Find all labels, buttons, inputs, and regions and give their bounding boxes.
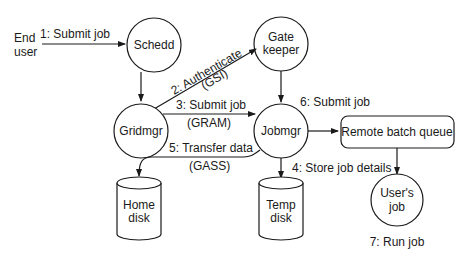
svg-text:(GASS): (GASS) (189, 159, 230, 173)
svg-text:5: Transfer data: 5: Transfer data (169, 141, 253, 155)
svg-text:Gate: Gate (268, 30, 294, 44)
svg-text:(GRAM): (GRAM) (187, 116, 231, 130)
node-schedd: Schedd (127, 18, 181, 72)
node-jobmgr: Jobmgr (254, 104, 308, 158)
svg-text:disk: disk (128, 211, 150, 225)
svg-text:User's: User's (380, 186, 414, 200)
svg-text:6: Submit job: 6: Submit job (300, 95, 370, 109)
svg-text:job: job (388, 200, 405, 214)
edge-submit-job-3: 3: Submit job (GRAM) (163, 98, 255, 130)
svg-text:Jobmgr: Jobmgr (261, 124, 301, 138)
svg-text:keeper: keeper (263, 43, 300, 57)
svg-text:4: Store job details: 4: Store job details (292, 161, 391, 175)
svg-text:Schedd: Schedd (134, 38, 175, 52)
condor-g-diagram: End user 1: Submit job Schedd Gate keepe… (0, 0, 472, 266)
edge-submit-job-1: 1: Submit job (40, 27, 125, 44)
svg-text:user: user (14, 45, 37, 59)
svg-text:Remote batch queue: Remote batch queue (341, 125, 453, 139)
svg-text:3: Submit job: 3: Submit job (176, 98, 246, 112)
svg-text:Temp: Temp (266, 198, 296, 212)
end-user-label: End user (14, 31, 37, 59)
edge-store-job-details: 4: Store job details (281, 158, 391, 178)
node-gatekeeper: Gate keeper (254, 17, 308, 71)
node-remote-batch-queue: Remote batch queue (341, 116, 454, 148)
node-gridmgr: Gridmgr (114, 104, 168, 158)
svg-text:Gridmgr: Gridmgr (119, 124, 162, 138)
svg-text:End: End (14, 31, 35, 45)
edge-label: 1: Submit job (40, 27, 110, 41)
svg-text:disk: disk (270, 211, 292, 225)
edge-label-run-job: 7: Run job (370, 235, 425, 249)
node-home-disk: Home disk (117, 177, 161, 240)
node-temp-disk: Temp disk (259, 177, 303, 240)
svg-text:Home: Home (123, 198, 155, 212)
node-users-job: User's job (371, 174, 423, 226)
